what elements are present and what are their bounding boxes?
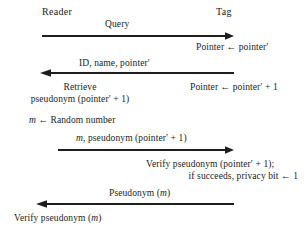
message-label-query: Query xyxy=(105,19,129,30)
actor-label-reader: Reader xyxy=(42,6,72,17)
message-label-m-pseudonym-pointer: m, pseudonym (pointer′ + 1) xyxy=(76,133,187,144)
note-tag-verify-pseudonym-line-1: Verify pseudonym (pointer′ + 1); xyxy=(146,159,274,170)
note-tag-pointer-assign-line-1: Pointer ← pointer′ xyxy=(196,42,268,53)
arrow-reader-to-tag-m-pseudonym xyxy=(58,146,234,155)
message-label-id-name-pointer: ID, name, pointer′ xyxy=(79,58,150,69)
arrow-tag-to-reader-pseudonym-m xyxy=(36,200,234,209)
arrow-tag-to-reader-id-name-pointer xyxy=(40,69,234,78)
note-reader-random-number-line-1: m ← Random number xyxy=(29,115,115,126)
note-reader-retrieve-pseudonym-line-2: pseudonym (pointer′ + 1) xyxy=(8,94,152,105)
note-tag-verify-pseudonym-line-2: if succeeds, privacy bit ← 1 xyxy=(106,171,298,182)
note-tag-pointer-increment-line-1: Pointer ← pointer′ + 1 xyxy=(190,82,278,93)
note-reader-retrieve-pseudonym-line-1: Retrieve xyxy=(20,82,140,93)
message-label-pseudonym-m: Pseudonym (m) xyxy=(109,188,170,199)
actor-label-tag: Tag xyxy=(216,6,232,17)
note-reader-verify-pseudonym-line-1: Verify pseudonym (m) xyxy=(14,213,102,224)
arrow-reader-to-tag-query xyxy=(42,32,234,41)
protocol-sequence-diagram: Reader Tag Query Pointer ← pointer′ ID, … xyxy=(0,0,304,235)
